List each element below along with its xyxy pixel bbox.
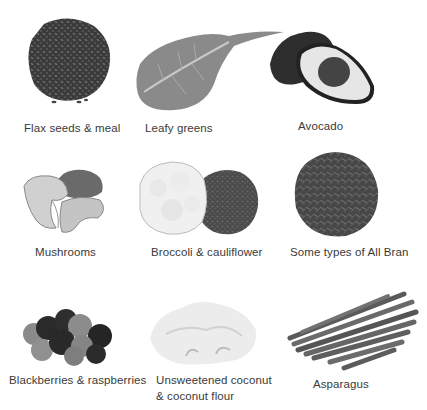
food-label: Broccoli & cauliflower [151,245,263,259]
mushrooms-icon [22,166,108,236]
food-label: Blackberries & raspberries [9,373,146,387]
avocado-icon [266,28,378,108]
flax-seeds-icon [24,14,114,106]
food-label: Avocado [298,119,343,133]
food-label: Asparagus [313,377,369,391]
food-label: Mushrooms [35,245,96,259]
food-label-line2: & coconut flour [156,389,234,403]
food-label: Some types of All Bran [290,245,409,259]
broccoli-cauliflower-icon [136,160,264,238]
food-label: Leafy greens [145,121,213,135]
food-label: Unsweetened coconut [156,373,272,387]
leafy-greens-icon [134,24,286,114]
coconut-icon [146,294,260,366]
all-bran-icon [292,150,380,238]
asparagus-icon [284,288,420,372]
berries-icon [20,308,120,368]
food-label: Flax seeds & meal [24,121,120,135]
